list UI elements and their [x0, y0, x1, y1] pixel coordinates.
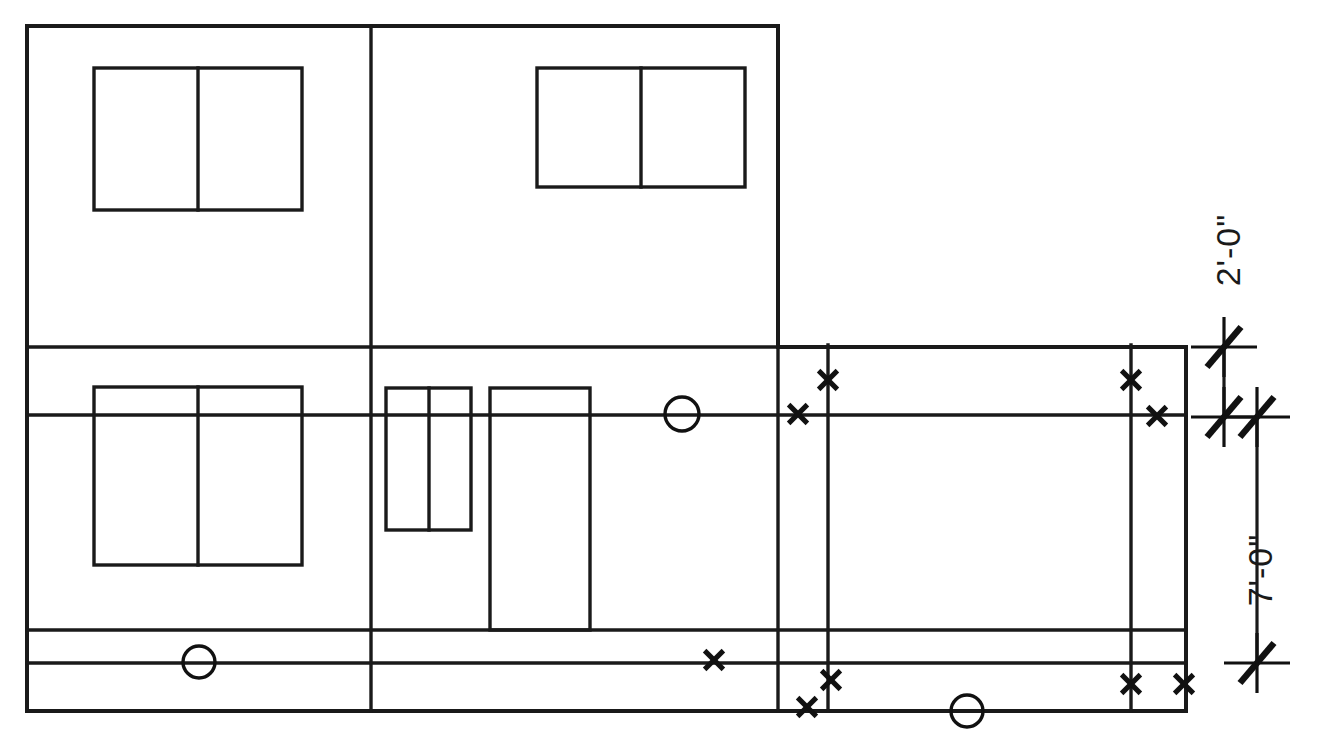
- vertical-reference-lines: [371, 26, 1131, 711]
- cross-marker-lower-post-low: [798, 698, 817, 717]
- tick-2-0-top: [1191, 317, 1257, 377]
- cross-marker-lower-post-high: [822, 671, 841, 690]
- dimension-7-0-label: 7'-0": [1241, 534, 1279, 607]
- drawing-canvas: 2'-0"7'-0": [0, 0, 1318, 749]
- window-upper-left: [94, 68, 302, 210]
- panel-tall-door: [490, 388, 590, 630]
- building-outline: [27, 26, 1186, 711]
- window-upper-right: [537, 68, 745, 187]
- cross-marker-lower-mid: [705, 651, 724, 670]
- elevation-drawing: 2'-0"7'-0": [0, 0, 1318, 749]
- dimension-2-0-label: 2'-0": [1209, 214, 1247, 287]
- tick-7-0-bottom: [1224, 633, 1290, 693]
- panel-tall-door-frame: [490, 388, 590, 630]
- tick-7-0-top: [1224, 387, 1290, 447]
- window-group: [94, 68, 745, 565]
- horizontal-reference-lines: [27, 347, 1186, 711]
- dimension-group: 2'-0"7'-0": [1191, 214, 1290, 693]
- panel-group: [386, 388, 590, 630]
- panel-narrow-double: [386, 388, 471, 530]
